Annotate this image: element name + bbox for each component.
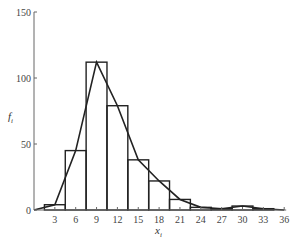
y-axis-label: fi [8,110,13,125]
frequency-polygon [34,62,284,210]
histogram-bar [149,181,170,210]
x-tick-label: 21 [175,214,185,225]
x-tick-label: 33 [258,214,268,225]
x-tick-label: 12 [112,214,122,225]
x-tick-label: 30 [238,214,248,225]
x-tick-label: 27 [217,214,227,225]
histogram-bar [65,151,86,210]
x-axis-label: xi [154,224,162,239]
y-tick-label: 150 [16,7,31,18]
histogram-bar [107,106,128,210]
y-tick-label: 0 [26,205,31,216]
x-tick-label: 24 [196,214,206,225]
x-tick-label: 3 [52,214,57,225]
y-tick-label: 100 [16,73,31,84]
x-tick-label: 9 [94,214,99,225]
x-tick-label: 36 [279,214,289,225]
y-tick-label: 50 [21,139,31,150]
x-tick-label: 6 [73,214,78,225]
histogram-chart: 050100150369121518212427303336 fi xi [0,0,294,243]
axes: 050100150369121518212427303336 [16,7,289,226]
x-tick-label: 15 [133,214,143,225]
histogram-bar [86,62,107,210]
